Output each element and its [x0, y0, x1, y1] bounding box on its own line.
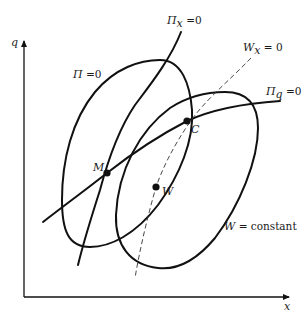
w-x-zero-label: Wx = 0 [243, 41, 283, 57]
point-w-marker [152, 183, 159, 190]
point-m-label: M [92, 161, 105, 174]
point-w-label: W [162, 185, 175, 198]
w-x-zero-curve [135, 58, 251, 278]
y-axis-label: q [11, 36, 18, 49]
point-c-marker [183, 117, 190, 124]
point-c-label: C [191, 123, 200, 136]
pi-x-zero-label: Πx =0 [166, 14, 202, 30]
pi-zero-curve [62, 60, 192, 247]
pi-q-zero-label: Πq =0 [265, 85, 301, 101]
point-m-marker [103, 169, 110, 176]
diagram-canvas: q x M C W Π =0 Πx =0 Wx = 0 Πq =0 W [0, 0, 307, 323]
x-axis-label: x [284, 300, 291, 313]
w-constant-label: W = constant [224, 220, 297, 233]
pi-zero-label: Π =0 [72, 68, 101, 81]
